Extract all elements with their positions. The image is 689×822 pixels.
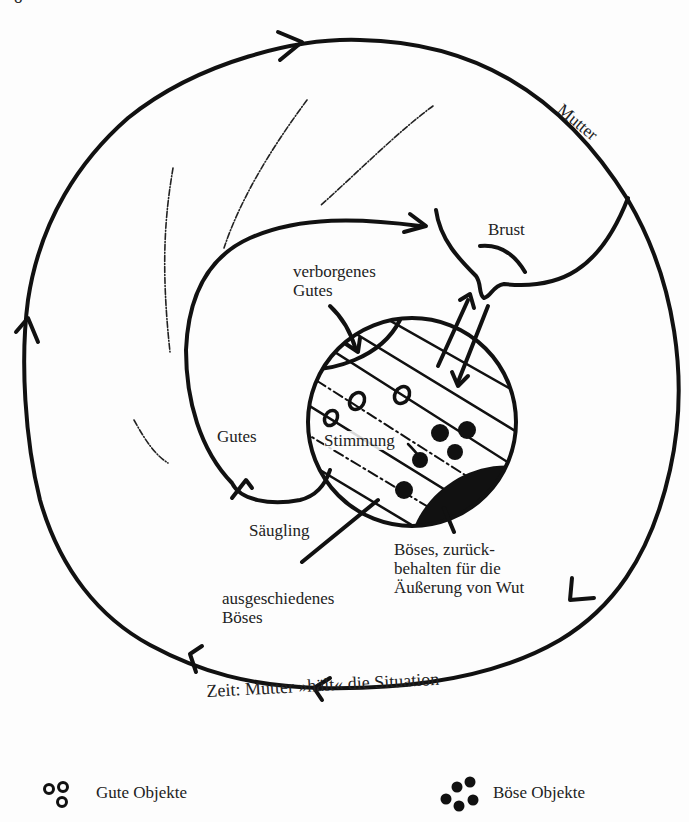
label-hidden-good: verborgenes Gutes [293, 262, 376, 300]
label-good: Gutes [217, 427, 257, 446]
legend-bad-icon [441, 777, 479, 812]
label-mood: Stimmung [324, 431, 395, 450]
faint-rays [134, 100, 433, 463]
legend-bad-label: Böse Objekte [493, 783, 585, 803]
infant-loop [186, 214, 426, 502]
legend-good-objects: Gute Objekte [96, 783, 187, 803]
label-retained-bad: Böses, zurück- behalten für die Äußerung… [394, 540, 524, 597]
legend-good-label: Gute Objekte [96, 783, 187, 803]
legend-bad-objects: Böse Objekte [493, 783, 585, 803]
arrow-right-bottom-icon [570, 578, 594, 600]
label-excreted-bad: ausgeschiedenes Böses [222, 589, 334, 627]
label-infant: Säugling [249, 521, 309, 540]
retained-bad-mass [410, 466, 520, 540]
legend-good-icon [45, 783, 68, 807]
breast-shape [436, 198, 628, 298]
label-brust: Brust [488, 220, 525, 239]
